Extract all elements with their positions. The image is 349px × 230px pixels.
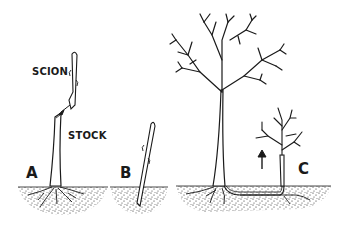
- parent-tree-crown: [170, 14, 286, 92]
- panel-b: [110, 122, 168, 214]
- panel-c: [170, 14, 331, 212]
- arrow-up-icon: [258, 150, 266, 169]
- label-stock: STOCK: [68, 130, 107, 141]
- parent-tree-trunk: [213, 90, 225, 186]
- panel-label-b: B: [120, 164, 131, 182]
- panel-label-c: C: [298, 160, 309, 178]
- stock-trunk: [50, 113, 61, 186]
- graft-arrow: [59, 105, 70, 115]
- sucker-trunk: [280, 155, 284, 186]
- soil-a: [18, 187, 108, 215]
- panel-label-a: A: [26, 164, 38, 182]
- sucker-crown: [256, 108, 302, 155]
- label-scion: SCION: [32, 66, 68, 77]
- scion: [69, 52, 77, 109]
- propagation-illustration: [0, 0, 349, 230]
